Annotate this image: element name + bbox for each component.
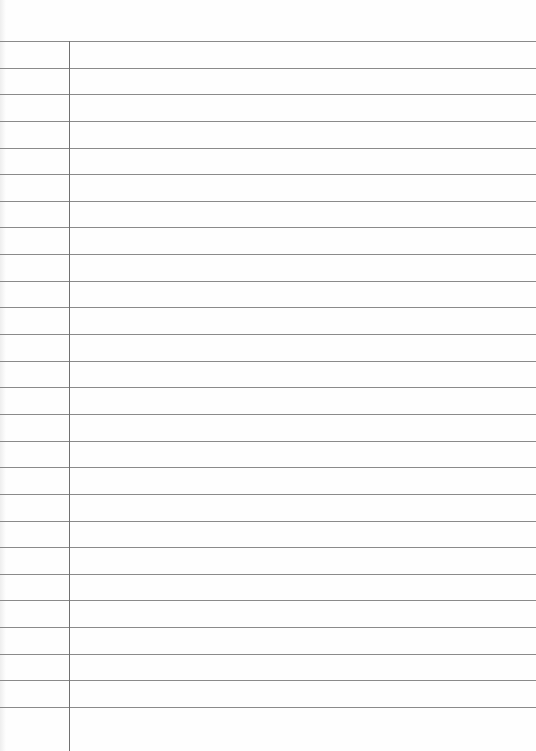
rule-line: [0, 654, 536, 655]
rule-line: [0, 574, 536, 575]
rule-line: [0, 254, 536, 255]
rule-line: [0, 121, 536, 122]
lined-paper: [0, 0, 536, 751]
paper-edge-shadow: [0, 0, 6, 751]
rule-line: [0, 68, 536, 69]
rule-line: [0, 334, 536, 335]
rule-line: [0, 387, 536, 388]
rule-line: [0, 627, 536, 628]
rule-line: [0, 41, 536, 42]
rule-line: [0, 94, 536, 95]
rule-line: [0, 227, 536, 228]
rule-line: [0, 467, 536, 468]
rule-line: [0, 494, 536, 495]
rule-line: [0, 414, 536, 415]
rule-line: [0, 201, 536, 202]
rule-line: [0, 600, 536, 601]
rule-line: [0, 521, 536, 522]
rule-line: [0, 281, 536, 282]
rule-line: [0, 547, 536, 548]
rule-line: [0, 707, 536, 708]
rule-line: [0, 680, 536, 681]
rule-line: [0, 441, 536, 442]
rule-line: [0, 307, 536, 308]
rule-line: [0, 174, 536, 175]
rule-line: [0, 148, 536, 149]
rule-line: [0, 361, 536, 362]
margin-line: [69, 41, 70, 751]
